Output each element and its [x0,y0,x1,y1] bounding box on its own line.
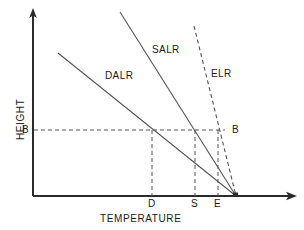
x-tick-label-e: E [214,199,221,209]
elr-label: ELR [211,69,232,79]
elr-line [194,26,236,196]
x-axis [33,192,297,200]
y-axis [29,8,37,196]
dalr-line [58,53,236,196]
x-axis-label: TEMPERATURE [100,214,181,224]
salr-label: SALR [152,45,180,55]
b-label-left: B [22,125,29,135]
lapse-rate-diagram: HEIGHT TEMPERATURE B B D S E DALR SALR E… [0,0,304,230]
dalr-label: DALR [105,71,133,81]
b-label-right: B [232,125,239,135]
diagram-canvas [0,0,304,230]
x-tick-label-s: S [191,199,198,209]
x-tick-label-d: D [148,199,156,209]
convergence-point-marker [233,193,238,197]
salr-line [120,12,236,196]
